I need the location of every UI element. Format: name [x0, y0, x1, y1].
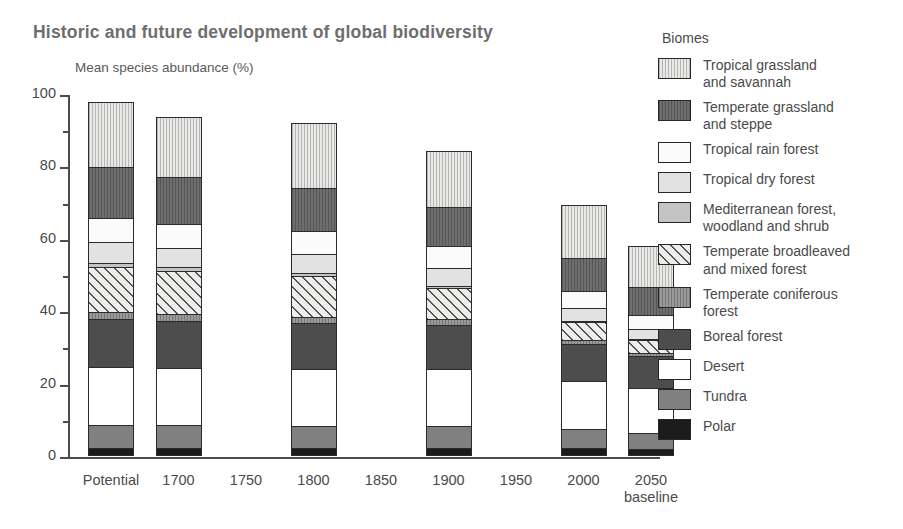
y-tick-minor	[63, 421, 68, 423]
y-tick-minor	[63, 276, 68, 278]
legend: Biomes Tropical grassland and savannahTe…	[658, 30, 903, 448]
legend-label-boreal: Boreal forest	[703, 328, 782, 345]
bar-segment-tempbroad[interactable]	[291, 276, 337, 318]
bar-segment-boreal[interactable]	[291, 323, 337, 371]
stacked-bar[interactable]	[291, 123, 337, 456]
y-tick-label: 60	[10, 231, 56, 246]
legend-label-tempbroad: Temperate broadleaved and mixed forest	[703, 243, 850, 277]
bar-segment-tropdry[interactable]	[88, 242, 134, 264]
bar-segment-boreal[interactable]	[426, 325, 472, 371]
x-axis-line	[68, 457, 660, 459]
y-tick-major	[60, 167, 68, 169]
bar-segment-desert[interactable]	[426, 369, 472, 427]
bar-segment-tempbroad[interactable]	[88, 267, 134, 314]
y-axis-line	[68, 95, 70, 459]
legend-item-tropdry[interactable]: Tropical dry forest	[658, 171, 903, 193]
legend-item-polar[interactable]: Polar	[658, 418, 903, 440]
page-title: Historic and future development of globa…	[33, 22, 493, 43]
legend-item-tempconif[interactable]: Temperate coniferous forest	[658, 286, 903, 320]
legend-swatch-tropgrass	[658, 58, 691, 79]
legend-label-tempconif: Temperate coniferous forest	[703, 286, 838, 320]
legend-swatch-tempconif	[658, 287, 691, 308]
legend-item-tempgrass[interactable]: Temperate grassland and steppe	[658, 99, 903, 133]
stacked-bar[interactable]	[156, 117, 202, 456]
y-tick-major	[60, 457, 68, 459]
y-tick-label: 100	[10, 86, 56, 101]
bar-segment-tempbroad[interactable]	[426, 288, 472, 320]
legend-item-tempbroad[interactable]: Temperate broadleaved and mixed forest	[658, 243, 903, 277]
bar-segment-tropdry[interactable]	[291, 254, 337, 274]
legend-item-medit[interactable]: Mediterranean forest, woodland and shrub	[658, 201, 903, 235]
bar-segment-desert[interactable]	[291, 369, 337, 427]
stacked-bar[interactable]	[88, 102, 134, 456]
y-tick-label: 40	[10, 303, 56, 318]
bar-segment-troprain[interactable]	[561, 291, 607, 310]
legend-label-tundra: Tundra	[703, 388, 747, 405]
bar-segment-tropdry[interactable]	[156, 248, 202, 269]
bar-segment-boreal[interactable]	[561, 344, 607, 382]
bar-segment-desert[interactable]	[88, 367, 134, 427]
stacked-bar[interactable]	[561, 205, 607, 456]
bar-segment-polar[interactable]	[628, 449, 674, 456]
y-tick-label: 0	[10, 448, 56, 463]
legend-swatch-desert	[658, 359, 691, 380]
legend-item-desert[interactable]: Desert	[658, 358, 903, 380]
bar-segment-tundra[interactable]	[156, 425, 202, 449]
bar-segment-tropdry[interactable]	[426, 268, 472, 287]
bar-segment-tropgrass[interactable]	[561, 205, 607, 259]
plot-area: 020406080100	[68, 95, 660, 458]
bar-segment-polar[interactable]	[88, 448, 134, 456]
legend-item-troprain[interactable]: Tropical rain forest	[658, 141, 903, 163]
y-axis-caption: Mean species abundance (%)	[75, 60, 254, 75]
y-tick-major	[60, 240, 68, 242]
bar-segment-troprain[interactable]	[156, 224, 202, 249]
bar-segment-tempgrass[interactable]	[561, 258, 607, 292]
legend-swatch-medit	[658, 202, 691, 223]
bar-segment-troprain[interactable]	[291, 231, 337, 255]
stacked-bar[interactable]	[426, 151, 472, 456]
bar-segment-polar[interactable]	[426, 448, 472, 456]
bar-segment-tempgrass[interactable]	[88, 167, 134, 219]
legend-label-desert: Desert	[703, 358, 744, 375]
legend-label-medit: Mediterranean forest, woodland and shrub	[703, 201, 836, 235]
bar-segment-tempgrass[interactable]	[291, 188, 337, 233]
bar-segment-tropgrass[interactable]	[88, 102, 134, 169]
bar-segment-boreal[interactable]	[88, 319, 134, 368]
bar-segment-tundra[interactable]	[426, 426, 472, 449]
bar-segment-tempgrass[interactable]	[426, 207, 472, 248]
bar-segment-troprain[interactable]	[426, 246, 472, 269]
bar-segment-boreal[interactable]	[156, 321, 202, 370]
legend-item-tropgrass[interactable]: Tropical grassland and savannah	[658, 57, 903, 91]
legend-swatch-boreal	[658, 329, 691, 350]
y-tick-major	[60, 312, 68, 314]
bar-segment-tempbroad[interactable]	[561, 322, 607, 341]
bar-segment-polar[interactable]	[291, 448, 337, 456]
bar-segment-tundra[interactable]	[291, 426, 337, 449]
x-tick-label: 2050 baseline	[607, 472, 695, 506]
bar-segment-tundra[interactable]	[88, 425, 134, 449]
y-tick-minor	[63, 204, 68, 206]
bar-segment-tempgrass[interactable]	[156, 177, 202, 225]
bar-segment-tropgrass[interactable]	[426, 151, 472, 208]
legend-swatch-tempgrass	[658, 100, 691, 121]
legend-swatch-tempbroad	[658, 244, 691, 265]
bar-segment-desert[interactable]	[561, 381, 607, 431]
legend-title: Biomes	[662, 30, 903, 46]
figure-root: Historic and future development of globa…	[0, 0, 903, 529]
y-tick-major	[60, 95, 68, 97]
y-tick-label: 20	[10, 376, 56, 391]
bar-segment-tundra[interactable]	[561, 429, 607, 449]
bar-segment-tempbroad[interactable]	[156, 271, 202, 315]
bar-segment-tropgrass[interactable]	[156, 117, 202, 179]
bar-segment-polar[interactable]	[561, 448, 607, 456]
bar-segment-polar[interactable]	[156, 448, 202, 456]
bar-segment-tropgrass[interactable]	[291, 123, 337, 189]
bar-segment-troprain[interactable]	[88, 218, 134, 243]
legend-item-boreal[interactable]: Boreal forest	[658, 328, 903, 350]
y-tick-minor	[63, 131, 68, 133]
bar-segment-desert[interactable]	[156, 368, 202, 427]
legend-swatch-tropdry	[658, 172, 691, 193]
legend-label-polar: Polar	[703, 418, 736, 435]
legend-item-tundra[interactable]: Tundra	[658, 388, 903, 410]
legend-swatch-troprain	[658, 142, 691, 163]
